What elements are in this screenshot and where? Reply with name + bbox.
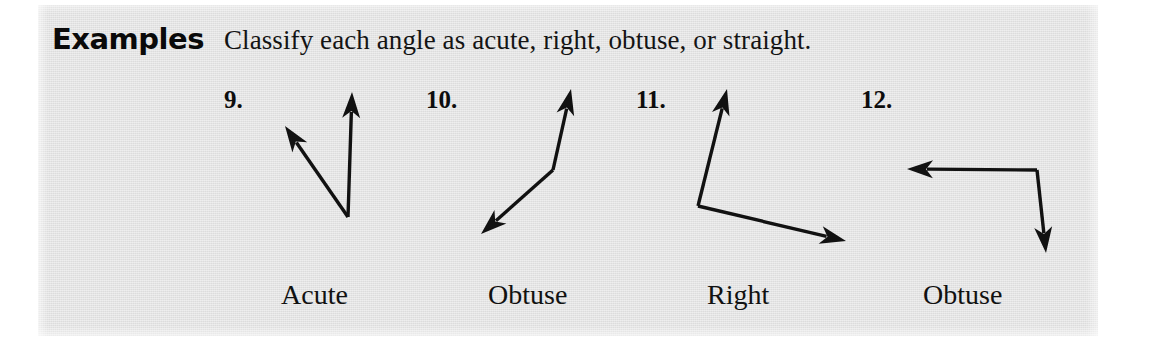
answer-label-10: Obtuse <box>488 279 567 311</box>
answer-label-11: Right <box>707 279 769 311</box>
heading-row: Examples Classify each angle as acute, r… <box>52 22 811 56</box>
answer-label-12: Obtuse <box>923 279 1002 311</box>
problem-number-11: 11. <box>636 86 666 114</box>
answer-label-9: Acute <box>281 279 348 311</box>
worksheet-page: Examples Classify each angle as acute, r… <box>0 0 1149 355</box>
problem-number-12: 12. <box>861 86 892 114</box>
problem-number-9: 9. <box>224 86 243 114</box>
instruction-text: Classify each angle as acute, right, obt… <box>224 25 812 56</box>
problem-number-10: 10. <box>426 86 457 114</box>
examples-label: Examples <box>52 22 204 56</box>
